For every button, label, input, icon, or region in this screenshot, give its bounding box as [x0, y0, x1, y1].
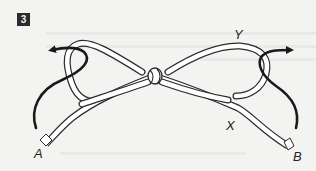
lower-left-strand: [82, 82, 148, 104]
center-knot: [148, 68, 162, 84]
knot-illustration: [0, 0, 316, 171]
label-x: X: [226, 118, 235, 133]
label-a: A: [34, 146, 43, 161]
lower-right-strand: [162, 82, 228, 100]
label-b: B: [293, 149, 302, 164]
label-y: Y: [234, 27, 243, 42]
knot-diagram: 3: [0, 0, 316, 171]
